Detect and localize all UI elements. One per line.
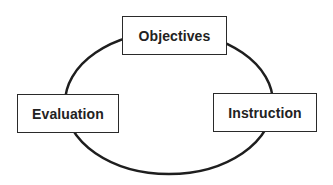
node-label-objectives: Objectives (139, 28, 211, 44)
node-evaluation: Evaluation (17, 94, 119, 133)
node-label-evaluation: Evaluation (32, 106, 104, 122)
node-label-instruction: Instruction (228, 105, 301, 121)
node-objectives: Objectives (122, 16, 227, 55)
node-instruction: Instruction (213, 93, 317, 132)
cycle-diagram: Objectives Instruction Evaluation (0, 0, 333, 185)
